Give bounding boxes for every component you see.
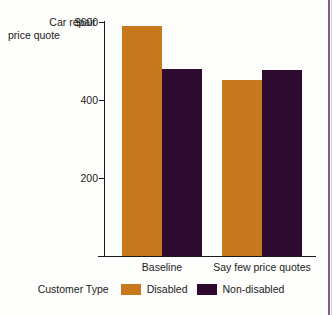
x-axis-label-baseline: Baseline — [112, 261, 212, 273]
y-tick-label-200: 200 — [8, 173, 98, 184]
x-axis-label-say-few-price-quotes: Say few price quotes — [202, 261, 322, 273]
legend-title: Customer Type — [38, 283, 109, 295]
legend-item-nondisabled[interactable]: Non-disabled — [197, 283, 285, 295]
legend-swatch-disabled-icon — [121, 284, 141, 295]
legend: Customer Type Disabled Non-disabled — [0, 283, 322, 295]
y-tick-label-400: 400 — [8, 95, 98, 106]
bar-sayfew-nondisabled[interactable] — [262, 70, 302, 256]
legend-label-disabled: Disabled — [147, 283, 188, 295]
page-edge-artifact — [328, 0, 330, 315]
bar-sayfew-disabled[interactable] — [222, 80, 262, 256]
legend-label-nondisabled: Non-disabled — [223, 283, 285, 295]
bar-baseline-disabled[interactable] — [122, 26, 162, 256]
chart-figure: Car repair price quote $600 400 200 Base… — [0, 0, 332, 315]
legend-swatch-nondisabled-icon — [197, 284, 217, 295]
x-axis-line — [98, 256, 316, 257]
plot-area — [104, 22, 316, 256]
bar-baseline-nondisabled[interactable] — [162, 69, 202, 256]
y-tick-label-600: $600 — [8, 17, 98, 28]
y-axis-title-line-2: price quote — [8, 29, 96, 42]
legend-item-disabled[interactable]: Disabled — [121, 283, 188, 295]
